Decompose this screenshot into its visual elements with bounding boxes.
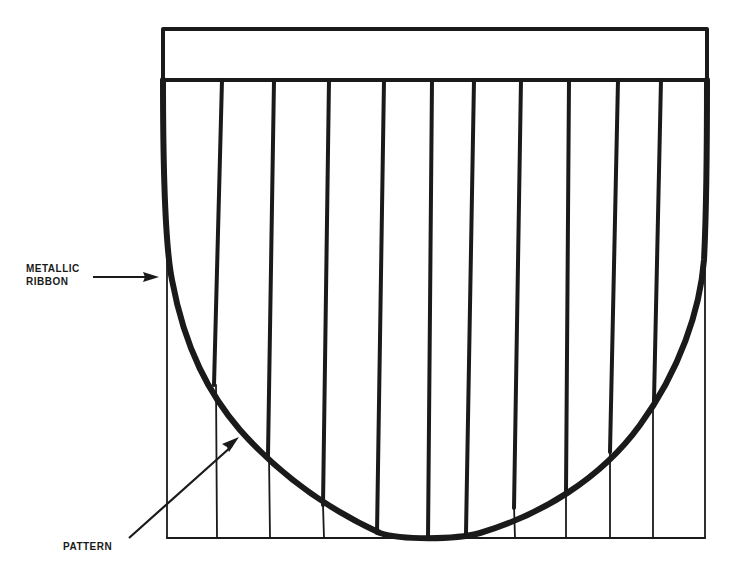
pattern-label: PATTERN [63,540,112,553]
metallic-ribbon-arrow [93,272,159,282]
metallic-ribbon-label-line1: METALLIC [26,262,96,275]
pattern-arrow [129,437,239,538]
pattern-grid [167,255,705,538]
metallic-ribbon-label-line2: RIBBON [26,275,96,288]
top-band [163,29,707,80]
metallic-ribbon-label: METALLIC RIBBON [26,262,96,288]
ribbon-pattern-diagram [0,0,747,578]
metallic-ribbon-curve [163,80,707,538]
